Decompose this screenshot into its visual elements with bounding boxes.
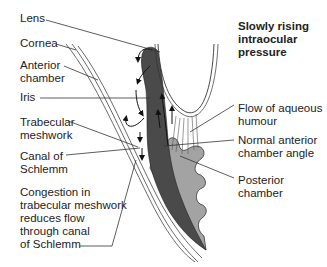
- label-cornea: Cornea: [20, 37, 58, 50]
- label-anterior-chamber-line-1: Anterior: [20, 59, 65, 72]
- label-canal-of-schlemm: Canal of Schlemm: [20, 150, 68, 176]
- label-posterior-chamber: Posterior chamber: [238, 174, 284, 200]
- label-congestion-line-4: through canal: [20, 225, 127, 238]
- lens-outline: [158, 44, 214, 113]
- diagram-title: Slowly rising intraocular pressure: [238, 20, 309, 59]
- title-line-3: pressure: [238, 46, 309, 59]
- label-posterior-line-1: Posterior: [238, 174, 284, 187]
- title-line-2: intraocular: [238, 33, 309, 46]
- label-flow-line-2: humour: [238, 115, 322, 128]
- label-canal-line-1: Canal of: [20, 150, 68, 163]
- label-lens: Lens: [20, 12, 45, 25]
- label-angle-line-2: chamber angle: [238, 147, 317, 160]
- label-canal-line-2: Schlemm: [20, 163, 68, 176]
- label-congestion-line-5: of Schlemm: [20, 238, 127, 251]
- label-congestion: Congestion in trabecular meshwork reduce…: [20, 186, 127, 251]
- label-congestion-line-3: reduces flow: [20, 212, 127, 225]
- label-anterior-chamber: Anterior chamber: [20, 59, 65, 85]
- label-flow-line-1: Flow of aqueous: [238, 102, 322, 115]
- label-anterior-chamber-line-2: chamber: [20, 72, 65, 85]
- label-trabecular-line-2: meshwork: [20, 129, 75, 142]
- label-angle-line-1: Normal anterior: [238, 134, 317, 147]
- label-trabecular-meshwork: Trabecular meshwork: [20, 116, 75, 142]
- label-congestion-line-1: Congestion in: [20, 186, 127, 199]
- label-iris: Iris: [20, 91, 35, 104]
- label-trabecular-line-1: Trabecular: [20, 116, 75, 129]
- label-flow-of-aqueous-humour: Flow of aqueous humour: [238, 102, 322, 128]
- label-congestion-line-2: trabecular meshwork: [20, 199, 127, 212]
- label-posterior-line-2: chamber: [238, 187, 284, 200]
- label-normal-anterior-chamber-angle: Normal anterior chamber angle: [238, 134, 317, 160]
- title-line-1: Slowly rising: [238, 20, 309, 33]
